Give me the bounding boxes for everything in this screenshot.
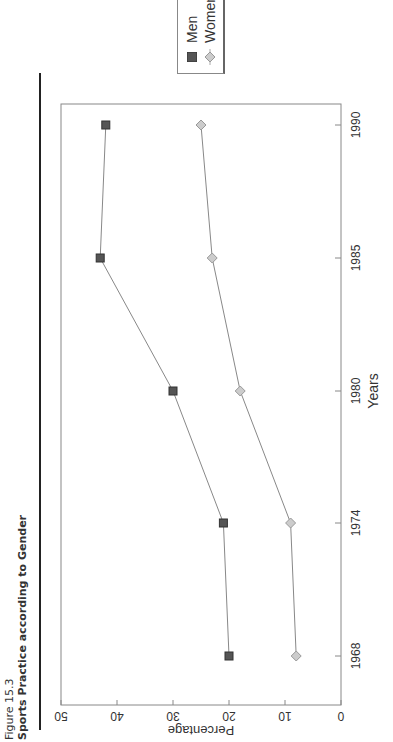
legend: Men Women: [177, 0, 225, 74]
y-axis: 01020304050: [54, 700, 344, 723]
series-group: [96, 120, 301, 661]
men-square-marker: [225, 652, 233, 660]
x-axis: 19681974198019851990: [335, 111, 363, 669]
men-square-marker: [219, 519, 227, 527]
x-tick-label: 1980: [349, 377, 363, 404]
legend-item-women: Women: [202, 0, 218, 65]
women-diamond-marker: [291, 651, 301, 661]
y-tick-label: 30: [166, 709, 180, 723]
men-square-marker: [96, 254, 104, 262]
x-tick-label: 1974: [349, 509, 363, 536]
rotated-figure-page: Figure 15.3 Sports Practice according to…: [0, 0, 393, 742]
legend-label-men: Men: [184, 16, 200, 43]
y-tick-label: 0: [337, 709, 344, 723]
women-diamond-marker: [235, 386, 245, 396]
filled-square-icon: [187, 49, 197, 65]
men-line: [100, 125, 229, 656]
y-tick-label: 40: [110, 709, 124, 723]
men-square-marker: [102, 121, 110, 129]
x-tick-label: 1985: [349, 244, 363, 271]
y-tick-label: 50: [54, 709, 68, 723]
y-axis-label: Percentage: [168, 723, 235, 738]
diamond-icon: [204, 49, 216, 65]
men-square-marker: [169, 387, 177, 395]
line-chart: 01020304050 19681974198019851990 Percent…: [0, 0, 393, 742]
women-diamond-marker: [286, 518, 296, 528]
women-diamond-marker: [196, 120, 206, 130]
x-axis-label: Years: [365, 373, 381, 408]
women-diamond-marker: [207, 253, 217, 263]
legend-label-women: Women: [202, 0, 218, 43]
y-tick-label: 20: [222, 709, 236, 723]
x-tick-label: 1968: [349, 642, 363, 669]
women-line: [201, 125, 296, 656]
legend-item-men: Men: [184, 16, 200, 65]
y-tick-label: 10: [278, 709, 292, 723]
x-tick-label: 1990: [349, 111, 363, 138]
